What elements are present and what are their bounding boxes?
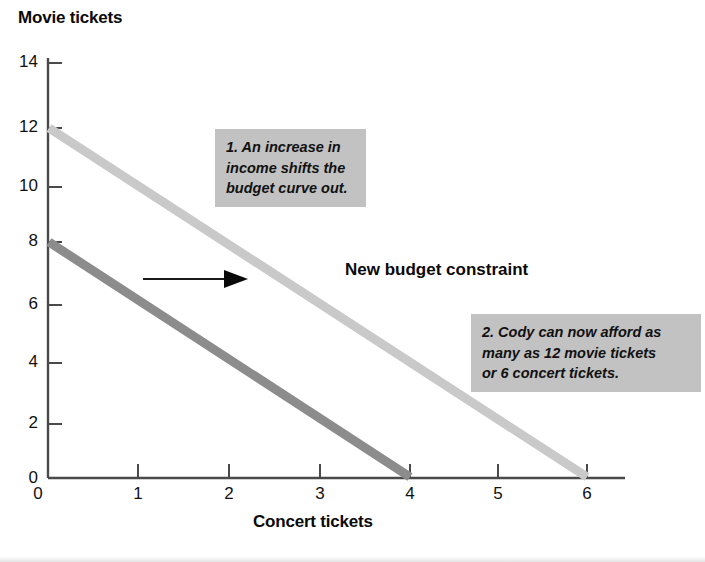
y-tick-label-6: 6 bbox=[4, 294, 38, 314]
annotation-callout-1: 1. An increase in income shifts the budg… bbox=[215, 129, 366, 207]
plot-area: 14 12 10 8 6 4 2 0 0 1 2 3 4 5 6 New bud… bbox=[0, 0, 705, 562]
x-tick-label-2: 2 bbox=[214, 484, 244, 504]
x-tick-label-0: 0 bbox=[23, 484, 53, 504]
new-budget-constraint-label: New budget constraint bbox=[345, 260, 528, 280]
chart-figure: Movie tickets Concert tickets bbox=[0, 0, 705, 562]
x-tick-marks bbox=[138, 464, 587, 478]
y-tick-label-4: 4 bbox=[4, 352, 38, 372]
y-tick-label-2: 2 bbox=[4, 413, 38, 433]
y-tick-label-14: 14 bbox=[4, 52, 38, 72]
x-tick-label-1: 1 bbox=[123, 484, 153, 504]
y-tick-label-10: 10 bbox=[4, 176, 38, 196]
x-tick-label-4: 4 bbox=[395, 484, 425, 504]
page-bottom-edge bbox=[0, 556, 705, 562]
right-arrow-icon bbox=[143, 270, 248, 288]
x-tick-label-6: 6 bbox=[572, 484, 602, 504]
x-tick-label-3: 3 bbox=[305, 484, 335, 504]
annotation-callout-1-line-3: budget curve out. bbox=[226, 178, 354, 199]
annotation-callout-2: 2. Cody can now afford as many as 12 mov… bbox=[471, 314, 701, 392]
annotation-callout-1-line-2: income shifts the bbox=[226, 158, 354, 179]
annotation-callout-2-line-2: many as 12 movie tickets bbox=[482, 343, 689, 364]
plot-svg bbox=[0, 0, 705, 562]
annotation-callout-2-line-3: or 6 concert tickets. bbox=[482, 363, 689, 384]
annotation-callout-1-line-1: 1. An increase in bbox=[226, 137, 354, 158]
annotation-callout-2-line-1: 2. Cody can now afford as bbox=[482, 322, 689, 343]
y-tick-label-8: 8 bbox=[4, 231, 38, 251]
x-tick-label-5: 5 bbox=[483, 484, 513, 504]
y-tick-label-12: 12 bbox=[4, 117, 38, 137]
